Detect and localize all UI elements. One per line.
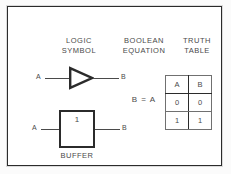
box-inner-label: 1 xyxy=(61,115,93,124)
truth-table-header-a: A xyxy=(166,76,189,94)
truth-table-header-b: B xyxy=(189,76,212,94)
truth-table-cell-b-row0: 0 xyxy=(189,94,212,112)
heading-logic-symbol: LOGIC SYMBOL xyxy=(44,36,114,55)
buffer-triangle-icon xyxy=(68,66,94,90)
box-output-label: B xyxy=(122,124,127,131)
truth-table-header-row: A B xyxy=(166,76,212,94)
box-output-wire xyxy=(95,129,120,130)
buffer-box-icon: 1 xyxy=(59,110,95,148)
truth-table: A B 0 0 1 1 xyxy=(165,75,212,130)
box-input-label: A xyxy=(32,124,37,131)
table-row: 0 0 xyxy=(166,94,212,112)
boolean-equation-text: B = A xyxy=(116,95,172,104)
box-input-wire xyxy=(41,129,60,130)
triangle-output-label: B xyxy=(121,73,126,80)
triangle-input-wire xyxy=(45,78,69,79)
truth-table-cell-a-row0: 0 xyxy=(166,94,189,112)
buffer-rectangular-symbol: A 1 B BUFFER xyxy=(32,107,132,159)
buffer-distinctive-symbol: A B xyxy=(36,65,128,91)
triangle-input-label: A xyxy=(36,73,41,80)
truth-table-cell-b-row1: 1 xyxy=(189,112,212,130)
table-row: 1 1 xyxy=(166,112,212,130)
heading-boolean-equation: BOOLEAN EQUATION xyxy=(116,36,172,55)
buffer-caption: BUFFER xyxy=(42,151,112,160)
truth-table-cell-a-row1: 1 xyxy=(166,112,189,130)
figure-page: LOGIC SYMBOL BOOLEAN EQUATION TRUTH TABL… xyxy=(0,0,231,174)
figure-frame: LOGIC SYMBOL BOOLEAN EQUATION TRUTH TABL… xyxy=(7,6,222,166)
heading-truth-table: TRUTH TABLE xyxy=(172,36,222,55)
triangle-output-wire xyxy=(93,78,119,79)
